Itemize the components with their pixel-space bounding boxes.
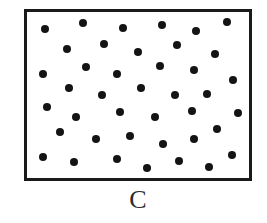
particle-dot: [171, 91, 179, 99]
particle-dot: [98, 91, 106, 99]
particle-dot: [175, 157, 183, 165]
particle-dot: [39, 70, 47, 78]
particle-dot: [43, 103, 51, 111]
particle-dot: [211, 50, 219, 58]
particle-dot: [158, 21, 166, 29]
particle-dot: [100, 40, 108, 48]
particle-dot: [190, 66, 198, 74]
particle-dot: [56, 128, 64, 136]
particle-dot: [159, 140, 167, 148]
particle-dot: [234, 109, 242, 117]
particle-dot: [79, 19, 87, 27]
particle-dot: [116, 108, 124, 116]
particle-dot: [119, 24, 127, 32]
particle-dot: [63, 45, 71, 53]
figure-caption-label: C: [98, 187, 178, 213]
figure-container: C: [0, 0, 267, 223]
particle-dot: [143, 164, 151, 172]
particle-dot: [65, 84, 73, 92]
particle-dot: [205, 163, 213, 171]
particle-dot: [188, 107, 196, 115]
particle-dot: [192, 27, 200, 35]
particle-dot: [173, 41, 181, 49]
particle-dot: [190, 135, 198, 143]
particle-dot: [228, 151, 236, 159]
particle-dot: [39, 153, 47, 161]
particle-dot: [70, 158, 78, 166]
particle-dot: [113, 155, 121, 163]
particle-dot: [126, 132, 134, 140]
particle-dot: [137, 84, 145, 92]
particle-dot: [113, 70, 121, 78]
particle-dot: [41, 25, 49, 33]
particle-dot: [223, 18, 231, 26]
particle-dot: [92, 135, 100, 143]
particle-dot: [151, 113, 159, 121]
particle-container-box: [24, 9, 252, 181]
particle-dot: [82, 63, 90, 71]
particle-dot: [229, 76, 237, 84]
particle-dot: [134, 48, 142, 56]
particle-dot: [72, 113, 80, 121]
particle-dot: [213, 125, 221, 133]
particle-dot: [156, 62, 164, 70]
particle-dot: [203, 90, 211, 98]
